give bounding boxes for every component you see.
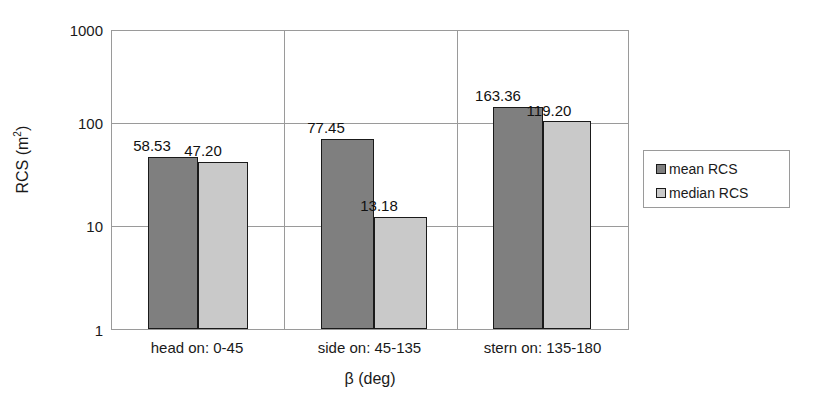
rcs-bar-chart: 1000 100 10 1 RCS (m2) 58.53 47.20 77.45…: [0, 0, 816, 414]
x-tick-label-stern-on: stern on: 135-180: [456, 340, 629, 355]
legend-item-median-rcs[interactable]: median RCS: [656, 182, 789, 203]
bar-mean-stern-on[interactable]: [493, 107, 543, 329]
y-axis-title: RCS (m2): [12, 85, 31, 235]
legend-label-median-rcs: median RCS: [669, 186, 748, 200]
legend-label-mean-rcs: mean RCS: [669, 162, 737, 176]
y-tick-label-100: 100: [33, 116, 103, 131]
x-tick-label-head-on: head on: 0-45: [111, 340, 283, 355]
bar-value-median-head-on: 47.20: [173, 143, 233, 158]
x-tick-label-side-on: side on: 45-135: [283, 340, 456, 355]
bar-value-median-side-on: 13.18: [349, 198, 409, 213]
y-tick-label-1: 1: [33, 323, 103, 338]
y-tick-label-1000: 1000: [33, 23, 103, 38]
y-axis-title-base: RCS (m: [14, 137, 31, 194]
y-tick-label-10: 10: [33, 219, 103, 234]
y-axis-title-exponent: 2: [12, 131, 23, 137]
legend: mean RCS median RCS: [643, 150, 790, 208]
legend-swatch-mean-icon: [656, 164, 666, 174]
plot-area: [111, 30, 629, 330]
bar-value-median-stern-on: 119.20: [518, 103, 580, 118]
bar-mean-head-on[interactable]: [148, 157, 198, 329]
legend-item-mean-rcs[interactable]: mean RCS: [656, 158, 789, 179]
y-axis-title-close: ): [14, 126, 31, 131]
bar-median-stern-on[interactable]: [543, 121, 591, 329]
bar-value-mean-side-on: 77.45: [296, 120, 356, 135]
category-separator-1: [284, 31, 285, 329]
x-axis-title: β (deg): [111, 370, 629, 388]
category-separator-2: [457, 31, 458, 329]
legend-swatch-median-icon: [656, 188, 666, 198]
bar-mean-side-on[interactable]: [321, 139, 374, 329]
bar-value-mean-stern-on: 163.36: [468, 88, 528, 103]
bar-median-side-on[interactable]: [374, 217, 427, 329]
bar-median-head-on[interactable]: [198, 162, 248, 329]
